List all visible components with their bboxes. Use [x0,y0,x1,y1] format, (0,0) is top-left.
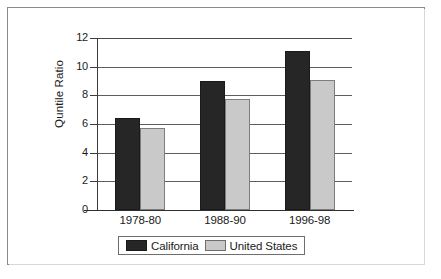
x-axis-tick-label: 1996-98 [270,214,350,226]
x-axis-tick-label: 1988-90 [185,214,265,226]
gridline [98,38,352,39]
bar-1988-90-california [200,81,225,210]
y-axis-tick-label: 4 [66,147,88,158]
legend-entry-united-states: United States [202,240,301,252]
y-axis-tick-labels: 024681012 [62,0,88,279]
chart-legend: CaliforniaUnited States [118,236,305,255]
y-axis-tick-label: 2 [66,175,88,186]
gray-swatch [205,240,226,251]
legend-label: United States [230,240,298,252]
legend-label: California [151,240,199,252]
bar-1978-80-california [115,118,140,210]
bar-chart-figure: Quntile Ratio 024681012 1978-801988-9019… [0,0,441,279]
x-axis-tick-label: 1978-80 [100,214,180,226]
legend-entry-california: California [123,240,202,252]
x-axis-line [84,210,354,211]
y-axis-tick-label: 10 [66,61,88,72]
y-axis-tick-label: 8 [66,89,88,100]
bar-1978-80-united-states [140,128,165,210]
bar-1988-90-united-states [225,99,250,210]
y-axis-tick-label: 6 [66,118,88,129]
bar-1996-98-united-states [310,80,335,210]
gridline [98,67,352,68]
y-axis-tick-label: 12 [66,32,88,43]
bar-1996-98-california [285,51,310,210]
black-swatch [126,240,147,251]
plot-area [98,38,352,210]
